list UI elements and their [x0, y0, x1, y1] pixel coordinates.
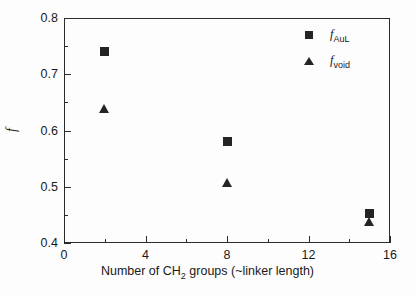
- x-axis-title-suffix: groups (~linker length): [186, 264, 314, 278]
- square-marker-icon: [305, 31, 313, 39]
- x-tick-minor: [349, 239, 350, 243]
- triangle-marker-icon: [304, 57, 314, 65]
- x-tick-label: 12: [289, 249, 329, 262]
- legend-label: fvoid: [322, 53, 350, 70]
- y-tick-major: [64, 18, 71, 19]
- data-point-triangle: [222, 178, 232, 187]
- x-axis-title: Number of CH2 groups (~linker length): [0, 264, 415, 281]
- y-tick-label: 0.6: [24, 125, 58, 138]
- x-tick-label: 8: [207, 249, 247, 262]
- y-tick-label: 0.4: [24, 237, 58, 250]
- y-tick-minor: [64, 159, 68, 160]
- data-point-square: [100, 47, 109, 56]
- x-tick-major: [146, 236, 147, 243]
- x-tick-label: 4: [126, 249, 166, 262]
- y-tick-major: [64, 74, 71, 75]
- chart-figure: 0.40.50.60.70.8 0481216 f Number of CH2 …: [0, 0, 415, 295]
- y-tick-major: [64, 131, 71, 132]
- data-point-triangle: [364, 217, 374, 226]
- y-tick-minor: [64, 102, 68, 103]
- y-tick-major: [64, 187, 71, 188]
- x-axis-title-prefix: Number of CH: [101, 264, 181, 278]
- data-point-square: [223, 137, 232, 146]
- legend-item: fvoid: [296, 48, 384, 74]
- legend-triangle-icon: [296, 57, 322, 65]
- chart-legend: fAuLfvoid: [296, 22, 384, 74]
- x-tick-major: [390, 236, 391, 243]
- legend-square-icon: [296, 31, 322, 39]
- x-tick-major: [309, 236, 310, 243]
- y-tick-minor: [64, 215, 68, 216]
- y-axis-title: f: [4, 128, 20, 132]
- y-tick-major: [64, 243, 71, 244]
- x-tick-minor: [105, 239, 106, 243]
- x-tick-minor: [186, 239, 187, 243]
- y-tick-minor: [64, 46, 68, 47]
- y-tick-label: 0.8: [24, 12, 58, 25]
- y-tick-label: 0.7: [24, 68, 58, 81]
- legend-item: fAuL: [296, 22, 384, 48]
- y-tick-label: 0.5: [24, 181, 58, 194]
- x-tick-major: [227, 236, 228, 243]
- x-tick-major: [64, 236, 65, 243]
- data-point-triangle: [99, 104, 109, 113]
- x-tick-label: 16: [370, 249, 410, 262]
- x-tick-minor: [268, 239, 269, 243]
- legend-label: fAuL: [322, 27, 350, 44]
- x-tick-label: 0: [44, 249, 84, 262]
